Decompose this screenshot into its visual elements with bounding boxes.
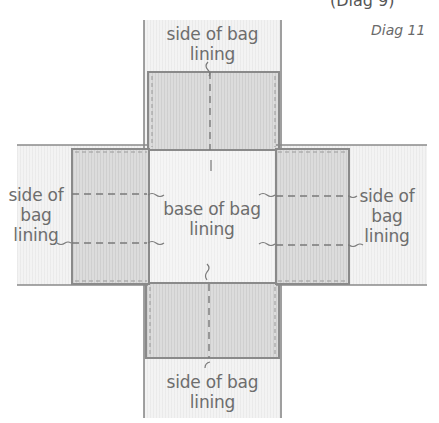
label-line: side of bag [144, 24, 281, 44]
label-bottom-side: side of bag lining [144, 372, 281, 412]
label-line: lining [144, 44, 281, 64]
label-line: bag [2, 205, 70, 225]
label-line: side of bag [144, 372, 281, 392]
label-left-side: side of bag lining [2, 185, 70, 245]
label-line: side of [2, 185, 70, 205]
label-line: lining [148, 219, 276, 239]
label-top-side: side of bag lining [144, 24, 281, 64]
label-line: side of [354, 186, 420, 206]
label-line: lining [354, 226, 420, 246]
label-base: base of bag lining [148, 199, 276, 239]
label-line: lining [2, 225, 70, 245]
label-line: lining [144, 392, 281, 412]
label-line: base of bag [148, 199, 276, 219]
label-line: bag [354, 206, 420, 226]
label-right-side: side of bag lining [354, 186, 420, 246]
